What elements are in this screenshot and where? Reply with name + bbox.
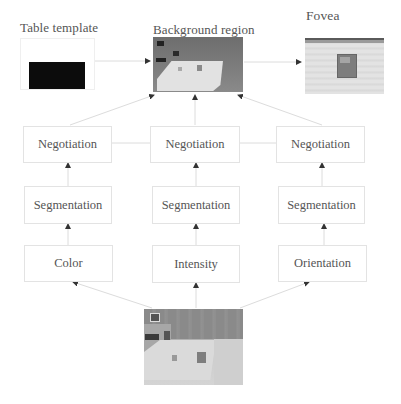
negotiation-box-intensity: Negotiation — [150, 126, 240, 163]
table-template-frame — [20, 38, 95, 90]
negotiation-box-orientation: Negotiation — [276, 126, 365, 163]
segmentation-box-color: Segmentation — [24, 186, 112, 224]
table-template-image — [29, 62, 85, 89]
background-region-image — [153, 37, 243, 92]
segmentation-box-orientation: Segmentation — [278, 186, 365, 224]
segmentation-box-intensity: Segmentation — [152, 186, 240, 224]
negotiation-box-color: Negotiation — [23, 126, 112, 163]
table-template-label: Table template — [20, 20, 98, 36]
feature-box-intensity: Intensity — [152, 245, 240, 283]
feature-box-orientation: Orientation — [278, 245, 367, 282]
background-region-label: Background region — [153, 22, 255, 38]
fovea-image — [305, 38, 384, 94]
fovea-label: Fovea — [306, 8, 340, 24]
feature-box-color: Color — [24, 245, 113, 282]
input-scene-image — [144, 309, 243, 385]
